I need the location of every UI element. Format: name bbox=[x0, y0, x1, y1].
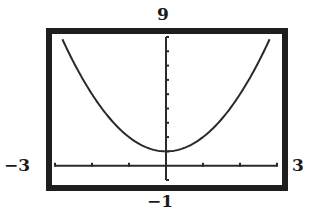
axes bbox=[55, 37, 277, 180]
graph-window bbox=[0, 0, 310, 218]
